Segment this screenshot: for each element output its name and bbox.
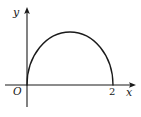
plot-canvas [0,0,141,117]
semicircle-curve [27,32,113,85]
x-tick-label-2: 2 [109,87,115,97]
figure-container: y x O 2 [0,0,141,117]
x-axis-label: x [126,87,132,98]
origin-label: O [13,86,22,97]
y-axis-label: y [13,7,19,18]
